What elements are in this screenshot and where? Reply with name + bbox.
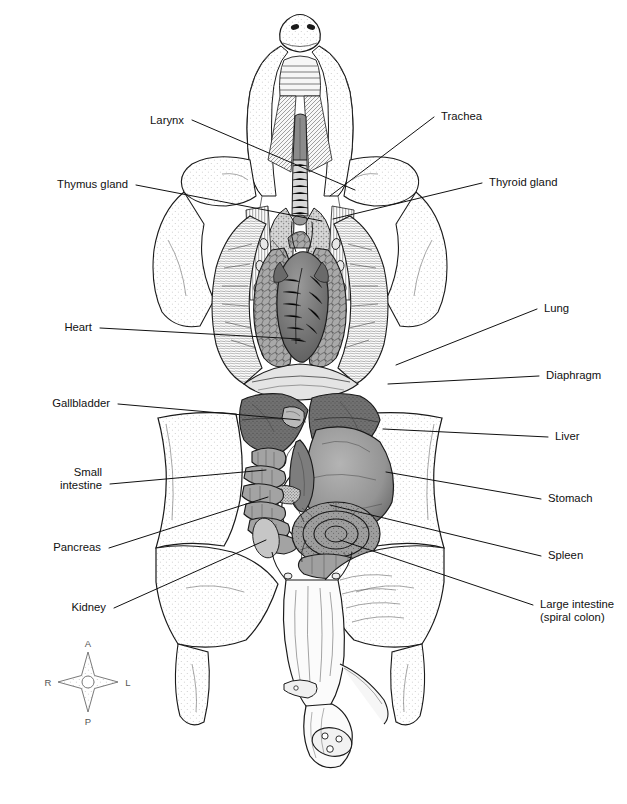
label-liver: Liver: [555, 430, 580, 442]
left-abdominal-flap: [156, 413, 242, 548]
label-large-intestine: Large intestine(spiral colon): [540, 598, 614, 623]
compass-anterior-label: A: [85, 638, 92, 649]
label-large-intestine-line-2: (spiral colon): [540, 611, 605, 623]
compass-left-label: L: [125, 677, 130, 688]
label-large-intestine-line-1: Large intestine: [540, 598, 614, 610]
anatomy-figure: LarynxThymus glandHeartGallbladderPancre…: [0, 0, 627, 804]
label-thyroid-gland: Thyroid gland: [489, 176, 557, 188]
compass-right-label: R: [45, 677, 52, 688]
label-trachea: Trachea: [441, 110, 483, 122]
label-diaphragm: Diaphragm: [546, 369, 601, 381]
label-kidney: Kidney: [71, 601, 106, 613]
label-larynx: Larynx: [150, 114, 184, 126]
label-gallbladder: Gallbladder: [52, 397, 110, 409]
labels-right-multiline: Large intestine(spiral colon): [540, 598, 614, 623]
label-small-intestine-line-1: Small: [74, 466, 102, 478]
left-shoulder-flap: [181, 157, 256, 206]
label-heart: Heart: [64, 321, 92, 333]
label-lung: Lung: [544, 302, 569, 314]
label-small-intestine-line-2: intestine: [60, 479, 102, 491]
label-spleen: Spleen: [548, 549, 583, 561]
label-stomach: Stomach: [548, 492, 593, 504]
label-pancreas: Pancreas: [53, 541, 101, 553]
compass-posterior-label: P: [85, 716, 91, 727]
right-shoulder-flap: [344, 157, 419, 206]
dissection-illustration: LarynxThymus glandHeartGallbladderPancre…: [0, 0, 627, 804]
label-thymus-gland: Thymus gland: [57, 178, 128, 190]
